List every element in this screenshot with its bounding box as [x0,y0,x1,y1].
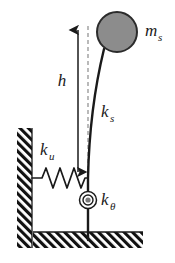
flexible-column [88,49,104,240]
label-rotational-spring-stiffness: k θ [101,190,116,212]
spring-coil-path [32,168,88,188]
diagram-canvas: m s h k s k u k θ [0,0,175,263]
label-lateral-spring-stiffness: k u [40,140,55,162]
label-height-symbol: h [58,71,67,90]
mechanical-schematic-diagram: m s h k s k u k θ [0,0,175,263]
label-lateral-spring-subscript: u [49,150,55,162]
hatched-wall [17,128,32,248]
mass-circle [97,12,137,52]
label-column-stiffness: k s [101,102,114,124]
lateral-spring [32,168,88,188]
pivot-center-dot [85,197,90,202]
rotational-spring-pivot [80,192,97,209]
label-mass-symbol: m [145,21,157,40]
label-mass: m s [145,21,162,43]
wall-hatch-fill [17,128,32,248]
label-mass-subscript: s [158,31,162,43]
label-column-stiffness-subscript: s [110,112,114,124]
label-rotational-spring-subscript: θ [110,200,116,212]
label-lateral-spring-symbol: k [40,140,48,159]
label-column-stiffness-symbol: k [101,102,109,121]
label-height: h [58,71,67,90]
label-rotational-spring-symbol: k [101,190,109,209]
